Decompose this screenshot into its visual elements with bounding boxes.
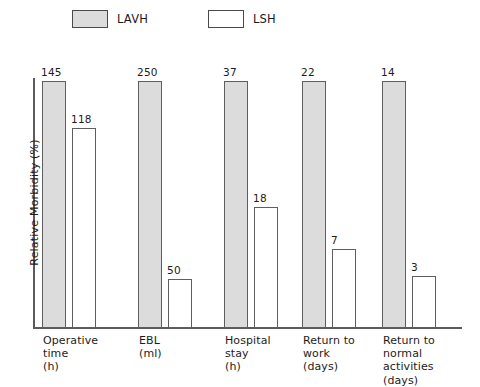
category-label-line: (h): [225, 360, 271, 373]
category-label: Return tonormalactivities(days): [383, 334, 435, 387]
bar-lsh-2: 18: [254, 207, 278, 328]
category-label-line: stay: [225, 347, 271, 360]
bar-rect: [138, 81, 162, 328]
category-label-line: (days): [383, 374, 435, 387]
bar-value-label: 145: [41, 66, 62, 78]
bar-rect: [332, 249, 356, 328]
bar-rect: [302, 81, 326, 328]
category-label-line: Return to: [303, 334, 355, 347]
category-label-line: Return to: [383, 334, 435, 347]
category-label-line: (h): [43, 360, 98, 373]
bar-rect: [168, 279, 192, 328]
category-label-line: work: [303, 347, 355, 360]
bar-value-label: 7: [331, 234, 338, 246]
bar-value-label: 250: [137, 66, 158, 78]
bar-lsh-1: 50: [168, 279, 192, 328]
bar-lavh-1: 250: [138, 81, 162, 328]
category-label-line: activities: [383, 360, 435, 373]
bar-lavh-4: 14: [382, 81, 406, 328]
bar-rect: [412, 276, 436, 328]
bar-rect: [72, 128, 96, 328]
bar-value-label: 18: [253, 192, 267, 204]
bar-value-label: 37: [223, 66, 237, 78]
category-label-line: EBL: [139, 334, 162, 347]
bar-value-label: 3: [411, 261, 418, 273]
bar-rect: [254, 207, 278, 328]
category-label-line: (ml): [139, 347, 162, 360]
bar-lavh-2: 37: [224, 81, 248, 328]
category-label-line: (days): [303, 360, 355, 373]
bar-rect: [382, 81, 406, 328]
category-label: EBL(ml): [139, 334, 162, 360]
category-label: Hospitalstay(h): [225, 334, 271, 374]
bar-groups: 145118250503718227143: [34, 60, 462, 328]
category-label-line: normal: [383, 347, 435, 360]
bar-lavh-3: 22: [302, 81, 326, 328]
category-label-line: Operative: [43, 334, 98, 347]
category-label-line: Hospital: [225, 334, 271, 347]
category-labels: Operativetime(h)EBL(ml)Hospitalstay(h)Re…: [34, 334, 462, 385]
bar-rect: [224, 81, 248, 328]
bar-value-label: 22: [301, 66, 315, 78]
bar-lavh-0: 145: [42, 81, 66, 328]
category-label: Return towork(days): [303, 334, 355, 374]
bar-lsh-3: 7: [332, 249, 356, 328]
bar-rect: [42, 81, 66, 328]
bar-lsh-0: 118: [72, 128, 96, 328]
bar-value-label: 14: [381, 66, 395, 78]
category-label: Operativetime(h): [43, 334, 98, 374]
bar-value-label: 50: [167, 264, 181, 276]
bar-value-label: 118: [71, 113, 92, 125]
category-label-line: time: [43, 347, 98, 360]
bar-lsh-4: 3: [412, 276, 436, 328]
